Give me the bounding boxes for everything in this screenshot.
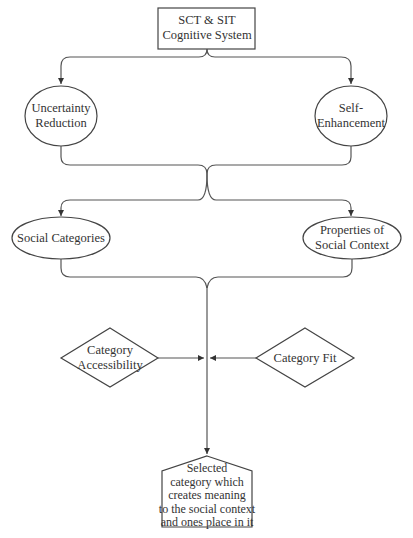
self-line-2: Enhancement [317, 116, 385, 131]
accessibility-line-2: Accessibility [77, 358, 142, 373]
fit-line-1: Category Fit [274, 351, 337, 366]
selected-line-1: Selected [159, 462, 255, 476]
node-properties-label: Properties of Social Context [315, 223, 389, 253]
uncertainty-line-1: Uncertainty [31, 101, 90, 116]
edge-self-merge [207, 146, 351, 174]
properties-line-1: Properties of [315, 223, 389, 238]
selected-line-3: creates meaning [159, 489, 255, 503]
selected-line-5: and ones place in it [159, 516, 255, 530]
edge-social-categories-merge [61, 259, 207, 288]
root-line-1: SCT & SIT [162, 13, 251, 28]
edge-split-properties [207, 174, 351, 216]
edge-split-social-categories [61, 174, 207, 216]
node-accessibility-label: Category Accessibility [77, 343, 142, 373]
edge-properties-merge [207, 259, 352, 288]
diagram-canvas [0, 0, 413, 538]
edge-uncertainty-merge [61, 146, 207, 174]
node-uncertainty-label: Uncertainty Reduction [31, 101, 90, 131]
root-line-2: Cognitive System [162, 28, 251, 43]
accessibility-line-1: Category [77, 343, 142, 358]
node-root-label: SCT & SIT Cognitive System [162, 13, 251, 43]
selected-line-2: category which [159, 476, 255, 490]
properties-line-2: Social Context [315, 238, 389, 253]
self-line-1: Self- [317, 101, 385, 116]
selected-line-4: to the social context [159, 503, 255, 517]
node-social-categories-label: Social Categories [17, 231, 105, 246]
node-fit-label: Category Fit [274, 351, 337, 366]
uncertainty-line-2: Reduction [31, 116, 90, 131]
node-self-label: Self- Enhancement [317, 101, 385, 131]
edge-root-self [207, 49, 351, 84]
social-categories-line-1: Social Categories [17, 231, 105, 246]
edge-root-uncertainty [61, 49, 207, 84]
node-selected-label: Selected category which creates meaning … [159, 462, 255, 530]
